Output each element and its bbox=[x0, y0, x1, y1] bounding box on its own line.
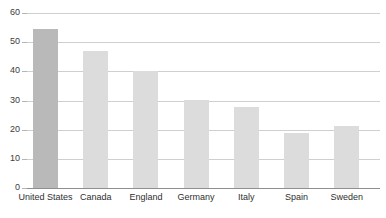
y-tick-label: 50 bbox=[0, 37, 20, 46]
y-tick-label: 60 bbox=[0, 8, 20, 17]
gridline bbox=[27, 13, 380, 14]
y-tick-mark bbox=[22, 42, 27, 43]
y-tick-mark bbox=[22, 13, 27, 14]
bar bbox=[284, 133, 309, 188]
bar bbox=[334, 126, 359, 188]
y-tick-mark bbox=[22, 101, 27, 102]
bar bbox=[33, 29, 58, 188]
x-axis-line bbox=[27, 188, 380, 189]
bar-chart: 0102030405060 United StatesCanadaEngland… bbox=[0, 0, 386, 218]
y-tick-mark bbox=[22, 159, 27, 160]
y-tick-mark bbox=[22, 71, 27, 72]
gridline bbox=[27, 71, 380, 72]
y-tick-label: 10 bbox=[0, 154, 20, 163]
bar bbox=[234, 107, 259, 188]
y-tick-label: 0 bbox=[0, 183, 20, 192]
y-tick-label: 20 bbox=[0, 125, 20, 134]
x-tick-label: Sweden bbox=[315, 192, 379, 203]
bar bbox=[184, 100, 209, 188]
bar bbox=[133, 71, 158, 188]
plot-area: 0102030405060 United StatesCanadaEngland… bbox=[0, 0, 386, 218]
y-tick-label: 40 bbox=[0, 66, 20, 75]
bar bbox=[83, 51, 108, 188]
y-tick-label: 30 bbox=[0, 96, 20, 105]
y-tick-mark bbox=[22, 130, 27, 131]
gridline bbox=[27, 42, 380, 43]
